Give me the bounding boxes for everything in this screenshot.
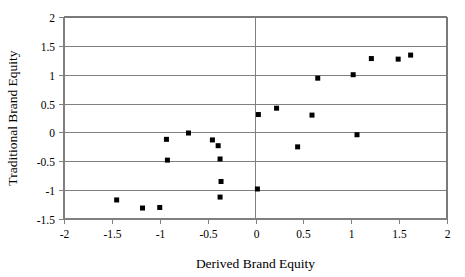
x-tick-label: 1: [349, 228, 355, 240]
x-tick-label: 2: [445, 228, 451, 240]
x-tick-label: -1: [156, 228, 166, 240]
x-tick-label: -2: [60, 228, 70, 240]
y-tick-label: -0.5: [37, 156, 55, 168]
y-tick-label: 1.5: [41, 41, 56, 53]
y-tick-label: 0.5: [41, 99, 56, 111]
data-point: [140, 206, 145, 211]
data-point: [210, 137, 215, 142]
data-point: [164, 137, 169, 142]
scatter-chart-figure: -1.5-1-0.500.511.52 -2-1.5-1-0.500.511.5…: [0, 0, 465, 277]
data-point: [309, 113, 314, 118]
data-point: [256, 112, 261, 117]
x-axis-ticks: -2-1.5-1-0.500.511.52: [60, 219, 451, 240]
data-point: [218, 195, 223, 200]
data-point: [157, 205, 162, 210]
x-tick-label: -0.5: [199, 228, 217, 240]
data-point: [295, 144, 300, 149]
y-tick-label: -1: [45, 185, 55, 197]
x-tick-label: 0.5: [296, 228, 311, 240]
data-point: [114, 197, 119, 202]
chart-svg: -1.5-1-0.500.511.52 -2-1.5-1-0.500.511.5…: [0, 0, 465, 277]
x-tick-label: -1.5: [103, 228, 121, 240]
data-point: [216, 143, 221, 148]
y-axis-ticks: -1.5-1-0.500.511.52: [37, 12, 64, 226]
data-point: [408, 53, 413, 58]
x-tick-label: 1.5: [392, 228, 407, 240]
data-point: [369, 56, 374, 61]
data-point: [186, 131, 191, 136]
data-point: [219, 179, 224, 184]
x-axis-title: Derived Brand Equity: [196, 256, 315, 271]
data-point: [165, 158, 170, 163]
data-point: [274, 106, 279, 111]
y-tick-label: -1.5: [37, 214, 55, 226]
data-point: [218, 156, 223, 161]
data-point: [315, 76, 320, 81]
y-tick-label: 0: [49, 127, 55, 139]
y-axis-title: Traditional Brand Equity: [5, 50, 20, 185]
data-point: [396, 57, 401, 62]
x-tick-label: 0: [254, 228, 260, 240]
data-point: [255, 186, 260, 191]
y-tick-label: 1: [49, 70, 55, 82]
data-point: [351, 72, 356, 77]
data-point: [355, 132, 360, 137]
y-tick-label: 2: [49, 12, 55, 24]
